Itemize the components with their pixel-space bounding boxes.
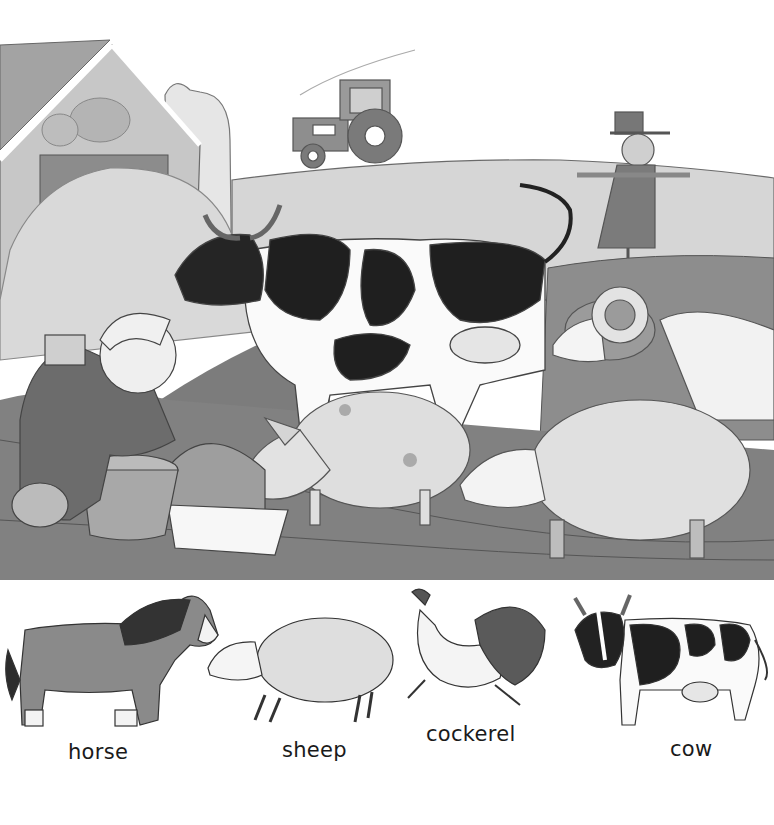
horse-label: horse <box>68 740 128 764</box>
sheep-label: sheep <box>282 738 347 762</box>
cow-illustration <box>575 595 767 725</box>
cow-label: cow <box>670 737 712 761</box>
cockerel-illustration <box>408 589 545 705</box>
sheep-illustration <box>208 618 393 722</box>
horse-illustration <box>6 596 218 726</box>
tractor <box>293 50 415 168</box>
farmyard-illustration <box>0 0 774 590</box>
cockerel-label: cockerel <box>426 722 516 746</box>
